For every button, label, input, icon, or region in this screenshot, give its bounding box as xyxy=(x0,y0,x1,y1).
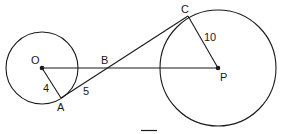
label-a: A xyxy=(57,101,65,113)
length-label-oa: 4 xyxy=(43,82,49,94)
label-b: B xyxy=(101,54,108,66)
point-o-dot xyxy=(40,66,45,71)
label-c: C xyxy=(181,3,189,15)
point-p-dot xyxy=(216,66,221,71)
label-o: O xyxy=(31,54,40,66)
length-label-pc: 10 xyxy=(204,31,216,43)
label-p: P xyxy=(220,71,227,83)
tangent-segment-ac xyxy=(61,16,188,98)
length-label-ab: 5 xyxy=(83,85,89,97)
diagram-canvas: O A B C P 4 5 10 xyxy=(0,0,283,134)
